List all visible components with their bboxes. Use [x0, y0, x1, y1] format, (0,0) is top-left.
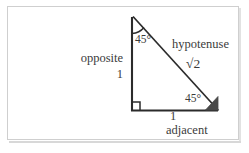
label-adjacent: adjacent	[166, 124, 208, 137]
label-hypotenuse-value: √2	[186, 57, 200, 71]
label-angle-right: 45°	[185, 92, 201, 104]
triangle-diagram	[0, 0, 249, 153]
label-angle-top: 45°	[135, 33, 151, 45]
right-angle-marker	[132, 102, 140, 110]
label-opposite: opposite	[48, 52, 123, 65]
label-opposite-value: 1	[48, 68, 123, 81]
hypotenuse-line	[133, 17, 219, 111]
label-hypotenuse: hypotenuse	[172, 38, 229, 51]
label-adjacent-value: 1	[170, 110, 176, 123]
